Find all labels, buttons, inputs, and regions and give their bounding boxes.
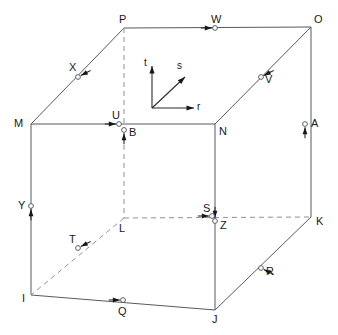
- coordinate-axes: [149, 66, 194, 111]
- marker-label-y: Y: [18, 200, 25, 211]
- marker-point-v: [259, 75, 264, 80]
- axis-label-t: t: [144, 58, 147, 68]
- marker-point-t: [76, 246, 81, 251]
- marker-point-a: [303, 122, 308, 127]
- marker-point-x: [76, 75, 81, 80]
- vertex-label-o: O: [314, 14, 323, 25]
- marker-point-u: [117, 122, 122, 127]
- vertex-label-i: I: [22, 293, 25, 304]
- marker-label-x: X: [69, 62, 76, 73]
- marker-label-s: S: [203, 203, 210, 214]
- axis-label-s: s: [177, 61, 182, 71]
- marker-point-y: [29, 204, 34, 209]
- marker-arrowhead-y: [29, 209, 34, 216]
- marker-point-z: [213, 219, 218, 224]
- vertex-label-m: M: [14, 118, 23, 129]
- marker-point-q: [121, 298, 126, 303]
- marker-point-s: [210, 214, 215, 219]
- marker-label-r: R: [266, 266, 274, 277]
- marker-point-w: [213, 26, 218, 31]
- vertex-label-j: J: [212, 314, 218, 325]
- marker-label-b: B: [129, 127, 136, 138]
- vertex-label-l: L: [119, 223, 125, 234]
- marker-arrowhead-b: [122, 133, 127, 140]
- marker-arrowhead-a: [303, 127, 308, 134]
- vertex-label-p: P: [119, 14, 126, 25]
- marker-arrowhead-w: [205, 26, 212, 31]
- marker-label-w: W: [211, 14, 221, 25]
- marker-point-r: [259, 266, 264, 271]
- marker-label-z: Z: [220, 220, 227, 231]
- marker-arrowhead-u: [109, 122, 116, 127]
- marker-label-v: V: [265, 74, 272, 85]
- marker-point-b: [122, 128, 127, 133]
- diagram-canvas: POMNLKIJWXVUBAYSZTRQ t s r: [0, 0, 338, 335]
- marker-label-a: A: [311, 118, 318, 129]
- cube-edge-l-i: [31, 218, 124, 295]
- axis-label-r: r: [197, 102, 200, 112]
- vertex-label-n: N: [219, 126, 227, 137]
- marker-label-u: U: [112, 110, 120, 121]
- marker-label-q: Q: [118, 306, 127, 317]
- cube-edge-l-k: [124, 217, 311, 218]
- marker-label-t: T: [69, 234, 76, 245]
- axis-r-arrowhead: [187, 105, 195, 110]
- cube-edge-k-j: [215, 217, 311, 310]
- axis-t-arrowhead: [149, 66, 154, 74]
- cube-diagram-svg: [0, 0, 338, 335]
- vertex-label-k: K: [316, 216, 323, 227]
- marker-arrowhead-t: [81, 241, 88, 246]
